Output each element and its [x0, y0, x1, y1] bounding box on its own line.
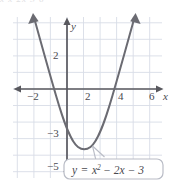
- y-axis-label: y: [70, 20, 76, 32]
- x-tick-label-2: 2: [85, 90, 91, 102]
- equation-lhs: y: [71, 164, 78, 177]
- graph-plot-area: −2 2 4 6 2 −3 −5 x y y=: [0, 0, 175, 184]
- coordinate-graph-svg: −2 2 4 6 2 −3 −5 x y y=: [0, 0, 175, 184]
- figure-container: x x 2x 3 6: [0, 0, 175, 184]
- x-tick-label--2: −2: [27, 90, 39, 102]
- equation-text: y=x2− 2x− 3: [71, 163, 144, 177]
- x-axis-label: x: [162, 90, 168, 102]
- x-tick-label-6: 6: [149, 90, 155, 102]
- y-tick-label--5: −5: [47, 160, 59, 172]
- equation-term1-exponent: 2: [97, 163, 101, 172]
- equation-term3: − 3: [128, 164, 145, 176]
- equation-equals: =: [81, 164, 89, 176]
- equation-callout-box: y=x2− 2x− 3: [64, 159, 163, 179]
- y-tick-label--3: −3: [47, 127, 59, 139]
- x-tick-label-4: 4: [118, 90, 124, 102]
- y-tick-label-2: 2: [53, 49, 59, 61]
- equation-term2: − 2x: [103, 164, 125, 176]
